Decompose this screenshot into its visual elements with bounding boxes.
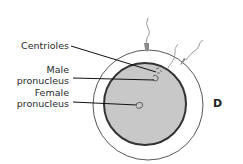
female-pronucleus-label: Female pronucleus bbox=[17, 87, 69, 109]
centrioles-label: Centrioles bbox=[21, 40, 69, 51]
sperm-icon bbox=[144, 18, 149, 52]
male-label-line2: pronucleus bbox=[17, 75, 69, 86]
male-pronucleus-label: Male pronucleus bbox=[17, 64, 69, 86]
female-label-line1: Female bbox=[17, 87, 69, 98]
male-label-line1: Male bbox=[17, 64, 69, 75]
panel-letter: D bbox=[213, 97, 222, 110]
female-label-line2: pronucleus bbox=[17, 98, 69, 109]
sperm-icon bbox=[180, 40, 203, 65]
